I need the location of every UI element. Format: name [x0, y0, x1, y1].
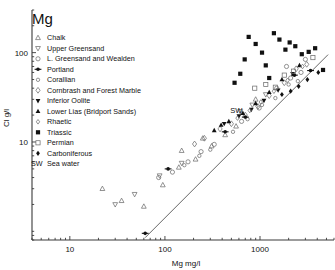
data-point: [234, 124, 239, 128]
x-tick-label: 1000: [251, 245, 269, 254]
legend-marker-diamond-filled: [36, 151, 40, 156]
data-point: [288, 40, 292, 44]
data-point: [296, 79, 299, 82]
scatter-plot-canvas: 10100100010100 SW Mg Mg mg/l Cl g/l Chal…: [0, 0, 335, 270]
data-point: [305, 77, 309, 82]
legend-item-carboniferous: Carboniferous: [36, 149, 92, 158]
legend-item-inferior-oolite: Inferior Oolite: [36, 96, 91, 105]
legend-item-upper-greensand: Upper Greensand: [36, 44, 105, 53]
legend-item-corallian: Corallian: [36, 75, 75, 84]
data-point: [303, 57, 307, 61]
data-point: [186, 160, 190, 164]
data-point: [226, 119, 231, 123]
legend-item-label: Permian: [47, 138, 74, 147]
data-point: [267, 90, 272, 94]
legend-item-label: Chalk: [47, 33, 66, 42]
legend-item-label: Cornbrash and Forest Marble: [47, 86, 141, 95]
legend-marker-square-filled: [36, 130, 40, 134]
data-point: [299, 70, 303, 74]
data-point: [264, 82, 268, 86]
data-point: [274, 96, 277, 99]
data-point: [272, 31, 276, 35]
data-point: [287, 83, 290, 86]
data-point: [170, 170, 174, 174]
data-point: [307, 50, 311, 54]
legend-item-cornbrash-and-forest-marble: Cornbrash and Forest Marble: [36, 86, 141, 95]
data-point: [254, 42, 258, 46]
data-point: [218, 126, 222, 132]
data-point: [239, 119, 243, 123]
data-point: [100, 186, 105, 190]
data-point: [132, 192, 137, 196]
legend-item-label: Carboniferous: [47, 149, 93, 158]
data-point: [199, 150, 203, 154]
y-tick-label: 100: [15, 49, 29, 58]
legend-marker-square-open: [36, 141, 40, 145]
legend-marker-triangle-up-open: [36, 35, 41, 39]
data-point: [238, 72, 242, 76]
legend-item-chalk: Chalk: [36, 33, 66, 42]
y-tick-label: 10: [19, 138, 28, 147]
data-point: [160, 182, 165, 186]
x-tick-label: 100: [158, 245, 172, 254]
legend-item-label: Triassic: [47, 128, 72, 137]
series-triassic: [232, 31, 325, 85]
legend-item-label: Lower Lias (Bridport Sands): [47, 107, 136, 116]
data-point: [297, 84, 301, 89]
data-point: [300, 52, 304, 56]
data-point: [212, 128, 217, 132]
legend-item-label: Inferior Oolite: [47, 96, 90, 105]
data-point: [267, 76, 271, 80]
chart-title: Mg: [32, 10, 53, 27]
data-point: [176, 165, 181, 169]
legend: ChalkUpper GreensandL. Greensand and Wea…: [31, 33, 141, 168]
legend-item-label: Portland: [47, 65, 74, 74]
legend-item-l-greensand-and-wealden: L. Greensand and Wealden: [36, 54, 135, 63]
legend-item-lower-lias-bridport-sands: Lower Lias (Bridport Sands): [36, 107, 136, 116]
data-point: [313, 46, 317, 50]
chart-figure: 10100100010100 SW Mg Mg mg/l Cl g/l Chal…: [0, 0, 335, 270]
data-point: [209, 143, 214, 147]
data-point: [209, 148, 212, 151]
data-point: [280, 92, 284, 97]
data-point: [183, 163, 186, 166]
legend-item-portland: Portland: [35, 65, 74, 74]
data-point: [119, 198, 124, 202]
x-axis-label: Mg mg/l: [172, 259, 201, 268]
data-point: [165, 167, 172, 171]
legend-marker-circle-open: [36, 57, 40, 61]
legend-marker-diamond-small-open: [36, 120, 39, 125]
data-point: [232, 81, 236, 85]
data-point: [284, 64, 288, 68]
x-tick-label: 10: [65, 245, 74, 254]
legend-item-label: Upper Greensand: [47, 44, 104, 53]
data-point: [260, 51, 264, 55]
data-point: [311, 55, 315, 59]
legend-item-label: L. Greensand and Wealden: [47, 54, 135, 63]
y-axis-label: Cl g/l: [2, 109, 11, 127]
legend-footnote-text: Sea water: [47, 159, 80, 168]
data-point: [277, 37, 281, 41]
data-point: [264, 63, 268, 67]
series-lower-lias-bridport-sands: [212, 63, 302, 132]
data-point: [222, 130, 229, 134]
sea-water-point: [242, 115, 249, 119]
legend-marker-triangle-down-open: [36, 47, 41, 51]
data-point: [179, 148, 184, 152]
legend-footnote: SWSea water: [31, 159, 80, 168]
legend-marker-circle-small-open: [36, 78, 39, 81]
legend-item-label: Rhaetic: [47, 117, 72, 126]
data-point: [282, 73, 286, 77]
data-point: [212, 142, 216, 146]
legend-footnote-key: SW: [31, 159, 43, 168]
legend-marker-triangle-down-filled: [36, 99, 41, 103]
legend-marker-triangle-up-filled: [36, 109, 41, 113]
data-point: [250, 103, 255, 107]
data-point: [142, 232, 149, 236]
data-point: [321, 68, 325, 72]
legend-item-permian: Permian: [36, 138, 74, 147]
legend-marker-dot-bar-filled: [35, 68, 42, 72]
data-point: [316, 70, 320, 75]
data-point: [247, 35, 251, 39]
data-point: [141, 204, 146, 208]
